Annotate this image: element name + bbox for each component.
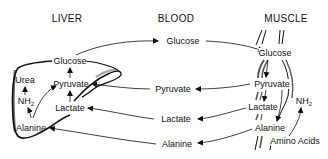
liver-glucose-label: Glucose [53, 56, 86, 66]
liver-nh2-text: NH [18, 96, 31, 106]
blood-glucose-label: Glucose [166, 36, 199, 46]
muscle-alanine-label: Alanine [255, 123, 285, 133]
liver-nh2-subscript: 2 [31, 101, 34, 107]
muscle-title: MUSCLE [264, 13, 307, 24]
muscle-nh2-label: NH2 [296, 96, 312, 109]
liver-pyruvate-label: Pyruvate [53, 79, 89, 89]
blood-lactate-label: Lactate [161, 114, 191, 124]
muscle-pyruvate-label: Pyruvate [254, 79, 290, 89]
blood-pyruvate-label: Pyruvate [155, 84, 191, 94]
liver-title: LIVER [52, 13, 82, 24]
liver-lactate-label: Lactate [55, 103, 85, 113]
muscle-amino-acids-label: Amino Acids [270, 136, 320, 146]
muscle-nh2-subscript: 2 [309, 101, 312, 107]
muscle-nh2-text: NH [296, 96, 309, 106]
blood-alanine-label: Alanine [162, 139, 192, 149]
liver-alanine-label: Alanine [16, 123, 46, 133]
liver-urea-label: Urea [15, 75, 35, 85]
muscle-lactate-label: Lactate [248, 102, 278, 112]
liver-nh2-label: NH2 [18, 96, 34, 109]
muscle-glucose-label: Glucose [258, 48, 291, 58]
blood-title: BLOOD [158, 13, 195, 24]
